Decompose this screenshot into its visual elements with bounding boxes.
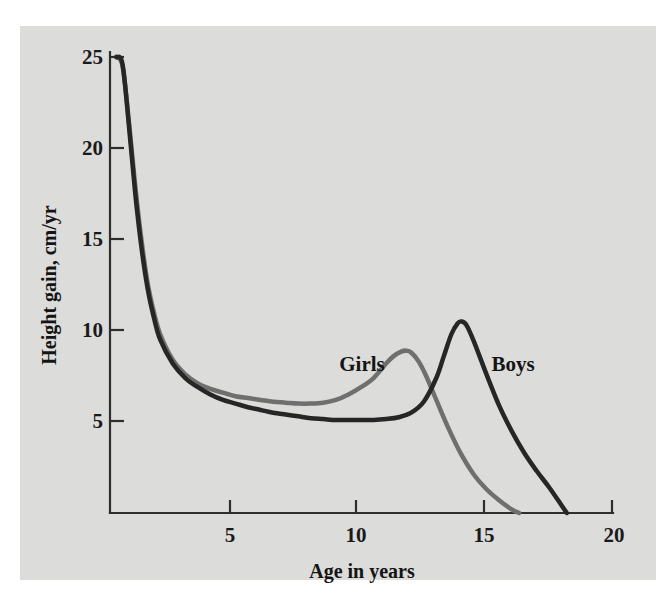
x-axis-ticks <box>230 500 612 513</box>
y-tick-label-10: 10 <box>82 318 103 342</box>
figure-canvas: 25 20 15 10 5 5 10 15 20 Age in years He… <box>0 0 664 606</box>
series-label-boys: Boys <box>491 352 534 376</box>
y-tick-label-25: 25 <box>82 45 103 69</box>
y-tick-label-5: 5 <box>93 409 104 433</box>
curve-girls <box>116 57 519 513</box>
x-tick-label-20: 20 <box>604 523 625 547</box>
x-tick-label-15: 15 <box>474 523 495 547</box>
x-tick-label-10: 10 <box>346 523 367 547</box>
x-axis-tick-labels: 5 10 15 20 <box>225 523 625 547</box>
x-axis-title: Age in years <box>309 560 415 583</box>
growth-velocity-chart: 25 20 15 10 5 5 10 15 20 Age in years He… <box>0 0 664 606</box>
x-tick-label-5: 5 <box>225 523 236 547</box>
series-label-girls: Girls <box>339 352 385 376</box>
y-tick-label-15: 15 <box>82 227 103 251</box>
y-axis-tick-labels: 25 20 15 10 5 <box>82 45 103 433</box>
y-axis-title: Height gain, cm/yr <box>38 205 61 365</box>
y-axis-ticks <box>110 57 124 421</box>
y-tick-label-20: 20 <box>82 136 103 160</box>
series-curves <box>116 57 567 513</box>
axes-group <box>110 52 613 513</box>
curve-boys <box>116 57 567 513</box>
